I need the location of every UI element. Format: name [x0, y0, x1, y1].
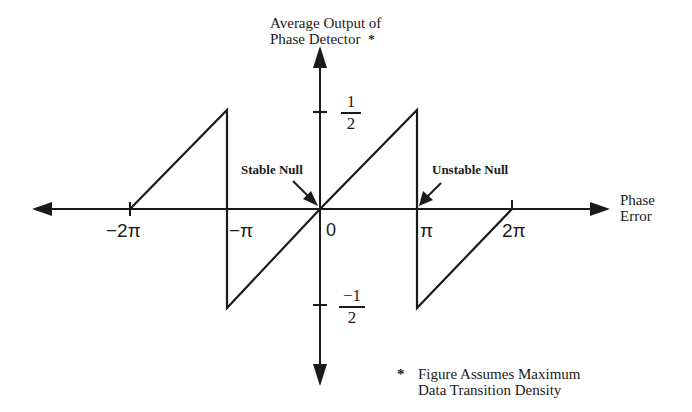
x-tick-label-zero: 0: [326, 221, 336, 240]
footnote-line1: Figure Assumes Maximum: [418, 367, 581, 383]
footnote-text: Figure Assumes Maximum Data Transition D…: [418, 367, 581, 399]
y-axis-title-line1: Average Output of: [270, 16, 381, 32]
y-tick-label-neg-half: −1 2: [339, 287, 365, 327]
y-axis-title-line2: Phase Detector: [270, 31, 360, 47]
x-tick-label-2pi: 2π: [502, 221, 526, 241]
footnote-star: *: [397, 367, 405, 383]
y-tick-neg-denominator: 2: [339, 309, 365, 327]
x-axis-left-arrow-icon: [32, 202, 52, 216]
x-axis-right-arrow-icon: [590, 202, 610, 216]
x-tick-label-pi: π: [420, 221, 433, 241]
y-axis-down-arrow-icon: [313, 364, 327, 386]
y-axis-title-line2-row: Phase Detector *: [270, 32, 381, 48]
y-tick-neg-numerator: −1: [339, 287, 365, 305]
stable-null-arrow-icon: [293, 181, 318, 206]
x-tick-label-neg-pi: −π: [229, 221, 253, 241]
y-axis-title: Average Output of Phase Detector *: [270, 16, 381, 48]
x-axis-title-line1: Phase: [620, 193, 655, 209]
x-tick-label-neg-2pi: −2π: [106, 221, 141, 241]
y-tick-pos-denominator: 2: [341, 115, 361, 133]
footnote-line2: Data Transition Density: [418, 383, 581, 399]
y-axis-up-arrow-icon: [313, 46, 327, 68]
unstable-null-label: Unstable Null: [432, 163, 508, 177]
y-tick-pos-numerator: 1: [341, 93, 361, 111]
y-axis: [313, 46, 327, 386]
x-axis-title: Phase Error: [620, 193, 655, 225]
unstable-null-arrow-icon: [419, 183, 441, 206]
stable-null-label: Stable Null: [241, 163, 303, 177]
phase-detector-plot: [0, 0, 692, 412]
x-axis-title-line2: Error: [620, 209, 655, 225]
footnote-marker: *: [368, 31, 375, 46]
y-tick-label-pos-half: 1 2: [341, 93, 361, 133]
